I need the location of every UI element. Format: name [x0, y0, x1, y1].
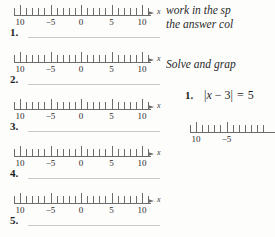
- major-tick: [51, 146, 52, 156]
- major-tick: [20, 146, 21, 156]
- minor-tick: [87, 8, 88, 15]
- answer-blank-line[interactable]: [28, 178, 160, 179]
- minor-tick: [239, 125, 240, 132]
- exercise-number: 4.: [10, 167, 18, 180]
- major-tick: [51, 193, 52, 203]
- minor-tick: [105, 149, 106, 156]
- problem-expression: |x−3|=5: [204, 88, 254, 102]
- expression-equals: =: [233, 88, 248, 102]
- minor-tick: [214, 125, 215, 132]
- major-tick: [112, 99, 113, 109]
- minor-tick: [148, 102, 149, 109]
- minor-tick: [57, 8, 58, 15]
- minor-tick: [251, 125, 252, 132]
- tick-label: −5: [222, 134, 232, 144]
- expression-variable: x: [206, 88, 211, 102]
- minor-tick: [63, 149, 64, 156]
- problem-number: 1.: [185, 88, 193, 102]
- minor-tick: [136, 149, 137, 156]
- minor-tick: [44, 55, 45, 62]
- major-tick: [112, 52, 113, 62]
- minor-tick: [130, 55, 131, 62]
- minor-tick: [63, 102, 64, 109]
- answer-row-2: 2.: [0, 73, 160, 87]
- minor-tick: [14, 8, 15, 15]
- minor-tick: [93, 8, 94, 15]
- minor-tick: [136, 196, 137, 203]
- major-tick: [81, 193, 82, 203]
- minor-tick: [87, 196, 88, 203]
- minor-tick: [44, 149, 45, 156]
- minor-tick: [69, 102, 70, 109]
- minor-tick: [93, 102, 94, 109]
- minor-tick: [124, 196, 125, 203]
- minor-tick: [69, 149, 70, 156]
- major-tick: [142, 146, 143, 156]
- major-tick: [142, 193, 143, 203]
- minor-tick: [105, 55, 106, 62]
- major-tick: [196, 122, 197, 132]
- minor-tick: [63, 55, 64, 62]
- number-line-problem-1: 10−5: [190, 118, 275, 144]
- minor-tick: [26, 55, 27, 62]
- minor-tick: [69, 55, 70, 62]
- minor-tick: [57, 149, 58, 156]
- answer-row-1: 1.: [0, 26, 160, 40]
- minor-tick: [136, 55, 137, 62]
- minor-tick: [105, 8, 106, 15]
- minor-tick: [57, 196, 58, 203]
- minor-tick: [99, 55, 100, 62]
- minor-tick: [118, 196, 119, 203]
- instructions-line-2: the answer col: [166, 17, 233, 31]
- minor-tick: [32, 149, 33, 156]
- minor-tick: [87, 55, 88, 62]
- minor-tick: [63, 8, 64, 15]
- minor-tick: [124, 149, 125, 156]
- minor-tick: [87, 102, 88, 109]
- minor-tick: [32, 8, 33, 15]
- major-tick: [51, 5, 52, 15]
- minor-tick: [69, 8, 70, 15]
- answer-blank-line[interactable]: [28, 225, 160, 226]
- answer-blank-line[interactable]: [28, 37, 160, 38]
- minor-tick: [208, 125, 209, 132]
- minor-tick: [118, 102, 119, 109]
- minor-tick: [148, 55, 149, 62]
- exercise-number: 5.: [10, 214, 18, 227]
- minor-tick: [93, 55, 94, 62]
- minor-tick: [32, 196, 33, 203]
- minor-tick: [93, 149, 94, 156]
- minor-tick: [99, 149, 100, 156]
- minor-tick: [38, 149, 39, 156]
- minor-tick: [99, 196, 100, 203]
- x-axis-label: x: [157, 54, 161, 63]
- major-tick: [51, 99, 52, 109]
- x-axis-label: x: [157, 101, 161, 110]
- minor-tick: [124, 55, 125, 62]
- minor-tick: [75, 55, 76, 62]
- x-axis-label: x: [157, 148, 161, 157]
- minor-tick: [75, 8, 76, 15]
- exercise-block-5: x 10−50510 5.: [0, 189, 160, 229]
- minor-tick: [38, 55, 39, 62]
- number-line-5: x 10−50510: [14, 189, 160, 215]
- number-line-axis: [14, 62, 151, 63]
- major-tick: [227, 122, 228, 132]
- minor-tick: [148, 196, 149, 203]
- exercise-block-3: x 10−50510 3.: [0, 95, 160, 135]
- minor-tick: [130, 196, 131, 203]
- number-line-axis: [190, 132, 275, 133]
- minor-tick: [136, 8, 137, 15]
- answer-blank-line[interactable]: [28, 131, 160, 132]
- worksheet-page: x 10−50510 1. x 10−50510 2.: [0, 0, 275, 237]
- answer-blank-line[interactable]: [28, 84, 160, 85]
- minor-tick: [14, 196, 15, 203]
- minor-tick: [105, 102, 106, 109]
- minor-tick: [93, 196, 94, 203]
- problem-row-1: 1. |x−3|=5: [166, 88, 275, 106]
- major-tick: [112, 5, 113, 15]
- minor-tick: [57, 55, 58, 62]
- answer-row-4: 4.: [0, 167, 160, 181]
- answer-row-3: 3.: [0, 120, 160, 134]
- minor-tick: [190, 125, 191, 132]
